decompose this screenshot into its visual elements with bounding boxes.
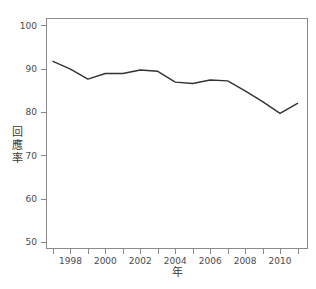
y-axis-title-char: 回 xyxy=(9,126,25,139)
x-axis-tick-mark xyxy=(70,249,71,254)
x-axis-tick-mark xyxy=(175,249,176,254)
plot-area xyxy=(46,18,308,249)
y-axis-tick-label: 80 xyxy=(26,106,37,118)
x-axis-title: 年 xyxy=(0,266,316,280)
y-axis-tick: 100 xyxy=(0,20,46,32)
y-axis-tick: 70 xyxy=(0,150,46,162)
x-axis-minor-tick-mark xyxy=(263,249,264,254)
y-axis-tick: 60 xyxy=(0,193,46,205)
x-axis-tick-mark xyxy=(280,249,281,254)
x-axis-minor-tick-mark xyxy=(88,249,89,254)
x-axis-tick-mark xyxy=(210,249,211,254)
x-axis-minor-tick-mark xyxy=(123,249,124,254)
y-axis-tick-label: 60 xyxy=(26,193,37,205)
y-axis-tick: 80 xyxy=(0,106,46,118)
x-axis-minor-tick-mark xyxy=(53,249,54,254)
x-axis-minor-tick-mark xyxy=(228,249,229,254)
y-axis-tick-label: 90 xyxy=(26,63,37,75)
x-axis-tick-mark xyxy=(105,249,106,254)
x-axis-tick-mark xyxy=(140,249,141,254)
y-axis-tick: 50 xyxy=(0,236,46,248)
x-axis-minor-tick-mark xyxy=(158,249,159,254)
y-axis-tick-label: 50 xyxy=(26,236,37,248)
x-axis-tick-mark xyxy=(245,249,246,254)
y-axis-tick-label: 100 xyxy=(20,20,37,32)
x-axis-minor-tick-mark xyxy=(298,249,299,254)
y-axis-tick: 90 xyxy=(0,63,46,75)
chart-figure: 回 應 率 5060708090100 19982000200220042006… xyxy=(0,0,316,289)
x-axis-minor-tick-mark xyxy=(193,249,194,254)
y-axis-tick-label: 70 xyxy=(26,150,37,162)
